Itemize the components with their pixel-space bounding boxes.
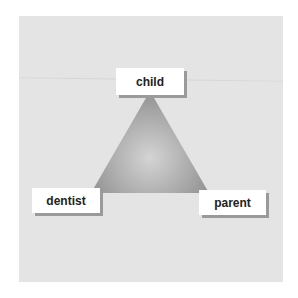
node-label: child xyxy=(136,75,164,89)
node-child: child xyxy=(116,68,184,95)
node-label: dentist xyxy=(46,194,85,208)
triangle-shape xyxy=(0,0,298,298)
node-dentist: dentist xyxy=(32,188,100,213)
node-parent: parent xyxy=(199,190,266,215)
node-label: parent xyxy=(214,196,251,210)
